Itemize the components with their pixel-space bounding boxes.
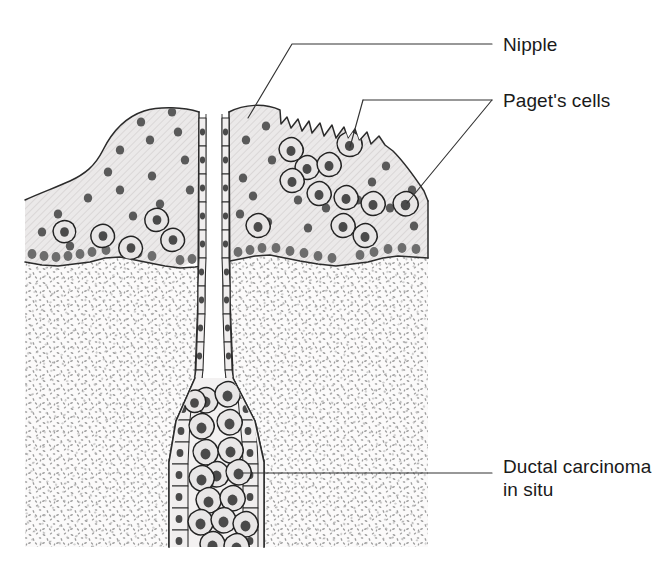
label-ductal-carcinoma-line2: in situ	[503, 479, 553, 500]
pagets-disease-diagram: Nipple Paget's cells Ductal carcinoma in…	[0, 0, 662, 573]
dcis-malignant-cell	[188, 510, 213, 536]
pagets-cell	[53, 221, 76, 243]
label-pagets-cells: Paget's cells	[503, 90, 610, 111]
pagets-cell	[145, 208, 169, 231]
pagets-cell	[317, 153, 341, 177]
leader-line-nipple	[248, 44, 492, 118]
dcis-malignant-cell	[217, 410, 242, 436]
pagets-cell	[353, 224, 377, 248]
dcis-malignant-cell	[189, 414, 214, 440]
pagets-cell	[91, 224, 115, 247]
pagets-cell	[337, 132, 362, 157]
leader-line-pagets-branch-lower	[407, 100, 492, 203]
pagets-cell	[119, 236, 143, 259]
label-group: Nipple Paget's cells Ductal carcinoma in…	[503, 34, 652, 500]
pagets-cell	[334, 186, 358, 210]
pagets-cell	[280, 169, 304, 193]
pagets-cell	[331, 214, 355, 238]
dcis-malignant-cell	[200, 532, 225, 558]
label-nipple: Nipple	[503, 34, 557, 55]
dcis-malignant-cell	[211, 508, 236, 534]
pagets-cell	[361, 192, 385, 216]
pagets-cell	[246, 214, 270, 238]
pagets-cell	[161, 228, 185, 251]
pagets-cell	[307, 182, 331, 206]
pagets-cell	[393, 192, 418, 217]
figure-root: Nipple Paget's cells Ductal carcinoma in…	[0, 0, 662, 573]
dcis-malignant-cell	[226, 460, 251, 486]
dcis-malignant-cell	[224, 534, 249, 560]
label-ductal-carcinoma-line1: Ductal carcinoma	[503, 456, 652, 477]
